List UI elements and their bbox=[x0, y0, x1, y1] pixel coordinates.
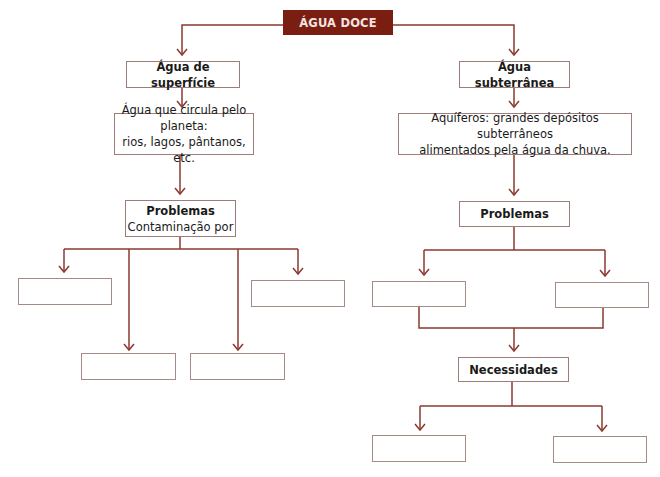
groundwater-desc-line2: alimentados pela água da chuva. bbox=[419, 142, 611, 158]
surface-blank-4[interactable] bbox=[251, 280, 345, 307]
groundwater-problem-blank-1[interactable] bbox=[372, 281, 466, 307]
surface-blank-2[interactable] bbox=[81, 353, 176, 380]
surface-water-description: Água que circula pelo planeta: rios, lag… bbox=[114, 113, 254, 155]
surface-water-heading: Água de superfície bbox=[126, 61, 240, 88]
groundwater-needs-box: Necessidades bbox=[458, 357, 569, 382]
groundwater-label: Água subterrânea bbox=[460, 59, 569, 91]
groundwater-problem-blank-2[interactable] bbox=[555, 282, 649, 308]
groundwater-need-blank-1[interactable] bbox=[372, 435, 466, 462]
surface-water-label: Água de superfície bbox=[127, 59, 239, 91]
groundwater-description: Aquíferos: grandes depósitos subterrâneo… bbox=[398, 113, 632, 155]
groundwater-desc-line1: Aquíferos: grandes depósitos subterrâneo… bbox=[399, 110, 631, 142]
groundwater-heading: Água subterrânea bbox=[459, 61, 570, 88]
surface-problems-heading: Problemas bbox=[146, 203, 215, 219]
groundwater-needs-heading: Necessidades bbox=[469, 362, 558, 378]
surface-desc-line1: Água que circula pelo planeta: bbox=[115, 102, 253, 134]
surface-problems-subtitle: Contaminação por bbox=[128, 219, 234, 235]
surface-blank-3[interactable] bbox=[190, 353, 285, 380]
groundwater-problems-heading: Problemas bbox=[480, 206, 549, 222]
surface-problems-box: Problemas Contaminação por bbox=[125, 200, 236, 237]
groundwater-problems-box: Problemas bbox=[459, 201, 570, 227]
groundwater-need-blank-2[interactable] bbox=[553, 436, 647, 463]
title-agua-doce: ÁGUA DOCE bbox=[283, 10, 393, 35]
surface-desc-line2: rios, lagos, pântanos, etc. bbox=[115, 134, 253, 166]
surface-blank-1[interactable] bbox=[18, 278, 112, 305]
